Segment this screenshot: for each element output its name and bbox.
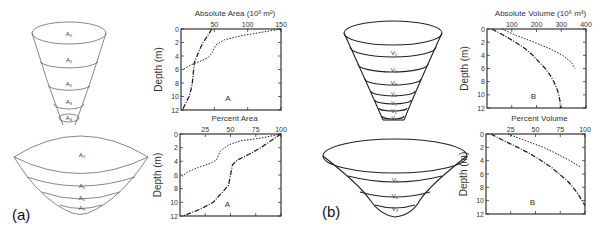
chart-title: Absolute Volume (10⁶ m³) (495, 9, 587, 18)
y-tick-label: 0 (480, 131, 484, 138)
y-tick-label: 6 (174, 172, 178, 179)
y-tick-label: 4 (480, 157, 484, 164)
x-tick-label: 50 (532, 126, 540, 133)
label-v4: V₄ (391, 91, 396, 97)
y-tick-label: 8 (480, 184, 484, 191)
y-tick-label: 0 (174, 131, 178, 138)
label-bowl-a0: A₀ (79, 152, 86, 158)
y-tick-label: 12 (171, 107, 179, 114)
label-bowl-a1: A₁ (79, 183, 85, 189)
chart-1: Percent Area255075100024681012Depth (m)A (152, 114, 287, 220)
label-v5: V₅ (391, 100, 396, 106)
series-line-funnel (182, 29, 211, 110)
y-tick-label: 12 (477, 105, 485, 112)
chart-3: Percent Volume255075100024681012Depth (m… (458, 114, 591, 218)
label-v3: V₃ (391, 80, 398, 86)
x-tick-label: 200 (531, 21, 543, 28)
y-tick-label: 2 (175, 39, 179, 46)
y-tick-label: 12 (170, 213, 178, 220)
y-tick-label: 6 (481, 65, 485, 72)
x-tick-label: 50 (227, 126, 235, 133)
panel-annotation: A (225, 94, 231, 103)
label-bowl-a3: A₃ (79, 205, 86, 211)
panel-label-b: (b) (322, 203, 340, 220)
x-tick-label: 75 (556, 126, 564, 133)
plot-frame (487, 29, 586, 108)
bowl-labels-a: A₀ A₁ A₂ A₃ (79, 152, 86, 211)
label-a1: A₁ (66, 57, 72, 63)
label-v2: V₂ (391, 67, 398, 73)
y-tick-label: 2 (481, 39, 485, 46)
label-a4: A₄ (66, 115, 73, 121)
panel-annotation: A (225, 200, 231, 209)
y-tick-label: 8 (174, 185, 178, 192)
figure: A₀ A₁ A₂ A₃ A₄ A₀ A₁ A₂ A₃ (a) V₁ V₂ V₃ … (0, 0, 604, 233)
bowl-diagram-a (14, 136, 148, 215)
chart-2: Absolute Volume (10⁶ m³)1002003004000246… (459, 9, 592, 112)
x-tick-label: 75 (252, 126, 260, 133)
x-tick-label: 50 (210, 21, 218, 28)
x-tick-label: 100 (579, 126, 591, 133)
x-tick-label: 25 (507, 126, 515, 133)
funnel-labels-a: A₀ A₁ A₂ A₃ A₄ (66, 31, 73, 121)
y-tick-label: 4 (175, 53, 179, 60)
label-v7: V₇ (391, 115, 396, 121)
y-tick-label: 0 (175, 26, 179, 33)
panel-annotation: B (530, 198, 535, 207)
plot-frame (486, 134, 585, 214)
y-tick-label: 10 (476, 197, 484, 204)
chart-title: Percent Volume (511, 114, 568, 123)
label-bowl-v2: V₂ (392, 193, 399, 199)
label-bowl-a2: A₂ (79, 195, 86, 201)
y-tick-label: 8 (175, 80, 179, 87)
panel-annotation: B (531, 92, 536, 101)
y-axis-label: Depth (m) (152, 153, 163, 197)
label-bowl-v3: V₃ (392, 206, 399, 212)
plot-frame (181, 29, 281, 110)
x-tick-label: 100 (506, 21, 518, 28)
label-v6: V₆ (391, 108, 396, 114)
y-axis-label: Depth (m) (458, 152, 469, 196)
series-line-funnel (183, 134, 281, 216)
y-tick-label: 10 (171, 93, 179, 100)
panel-label-a: (a) (12, 206, 30, 223)
y-tick-label: 10 (477, 91, 485, 98)
y-tick-label: 8 (481, 78, 485, 85)
label-a2: A₂ (66, 81, 73, 87)
series-line-funnel (491, 134, 585, 205)
label-a0: A₀ (66, 31, 73, 37)
x-tick-label: 300 (555, 21, 567, 28)
chart-title: Absolute Area (10³ m²) (195, 9, 276, 18)
y-tick-label: 4 (174, 158, 178, 165)
x-tick-label: 100 (275, 126, 287, 133)
y-tick-label: 6 (480, 171, 484, 178)
y-tick-label: 6 (175, 66, 179, 73)
x-tick-label: 400 (580, 21, 592, 28)
x-tick-label: 100 (242, 21, 254, 28)
y-axis-label: Depth (m) (459, 46, 470, 90)
chart-title: Percent Area (211, 114, 258, 123)
series-line-bowl (183, 29, 281, 70)
series-line-funnel (492, 29, 561, 108)
chart-0: Absolute Area (10³ m²)50100150024681012D… (153, 9, 287, 114)
y-axis-label: Depth (m) (153, 47, 164, 91)
y-tick-label: 2 (480, 144, 484, 151)
x-tick-label: 150 (275, 21, 287, 28)
funnel-diagram-a (32, 22, 106, 125)
label-v1: V₁ (391, 50, 397, 56)
bowl-labels-b: V₁ V₂ V₃ (392, 177, 399, 212)
series-line-bowl (502, 29, 575, 69)
label-bowl-v1: V₁ (392, 177, 398, 183)
y-tick-label: 4 (481, 52, 485, 59)
y-tick-label: 2 (174, 144, 178, 151)
y-tick-label: 12 (476, 211, 484, 218)
y-tick-label: 0 (481, 26, 485, 33)
y-tick-label: 10 (170, 199, 178, 206)
charts: Absolute Area (10³ m²)50100150024681012D… (152, 9, 592, 220)
label-a3: A₃ (66, 99, 73, 105)
x-tick-label: 25 (201, 126, 209, 133)
plot-frame (180, 134, 281, 216)
